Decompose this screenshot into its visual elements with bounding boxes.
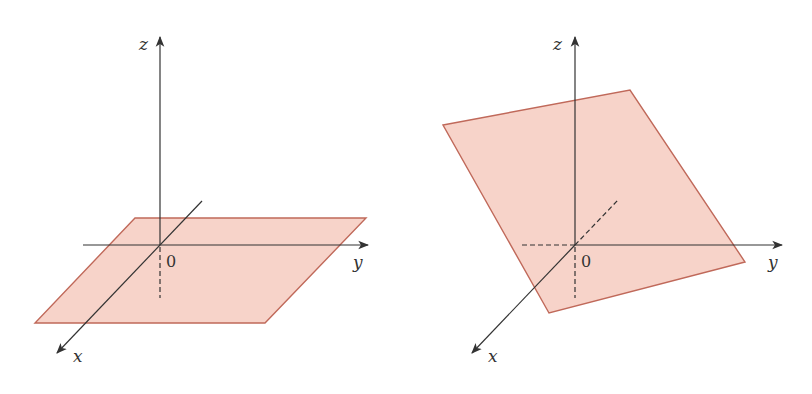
plane-tilted — [443, 90, 745, 313]
origin-label: 0 — [166, 252, 176, 271]
plane-horizontal — [35, 218, 366, 323]
z-label: z — [138, 34, 149, 54]
y-label: y — [767, 252, 778, 272]
y-label: y — [352, 252, 363, 272]
x-label: x — [73, 346, 83, 366]
figure-tilted-plane: z y x 0 — [443, 34, 782, 366]
x-label: x — [488, 346, 498, 366]
figure-horizontal-plane: z y x 0 — [35, 34, 368, 366]
diagram-canvas: z y x 0 z y x 0 — [0, 0, 812, 394]
z-label: z — [552, 34, 563, 54]
origin-label: 0 — [581, 252, 591, 271]
